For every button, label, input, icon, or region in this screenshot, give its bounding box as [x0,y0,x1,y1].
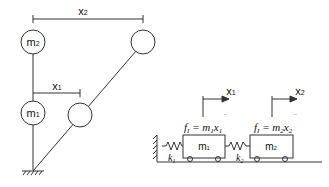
spring-k2 [225,142,250,150]
m2-block-label: m2 [265,141,277,152]
x1-arrow [203,96,222,117]
diagram-canvas: x2 x1 m2 m1 x1 x2 fI = m1x1 ¨ fI = m2x2 … [0,0,329,187]
equation-1: fI = m1x1 [184,121,222,135]
wheel-icon [188,157,193,162]
wall-icon [153,135,157,162]
mass-m1-displaced-circle [68,103,92,127]
x2-arrow [272,96,290,117]
m1-block-label: m1 [198,141,210,152]
x2-arrow-label: x2 [295,85,305,97]
wheel-icon [255,157,260,162]
wheel-icon [283,157,288,162]
double-dot-2: ¨ [294,112,297,121]
x1-label: x1 [52,80,62,92]
equation-2: fI = m2x2 [254,121,293,135]
x1-arrow-label: x1 [226,85,236,97]
k1-label: k1 [168,152,175,164]
double-dot-1: ¨ [224,112,227,121]
k2-label: k2 [236,152,243,164]
spring-k1 [162,142,183,150]
x2-label: x2 [78,5,88,17]
wheel-icon [216,157,221,162]
mass-m2-displaced-circle [131,30,155,54]
fixed-support-icon [22,171,44,175]
x2-dimension-line [33,15,143,23]
